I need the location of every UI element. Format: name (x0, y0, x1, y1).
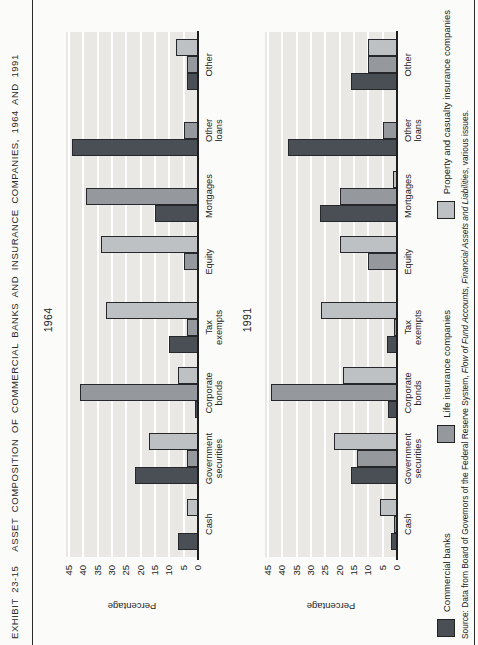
source-prefix: Source: Data from Board of Governors of … (460, 373, 470, 639)
bar-1991-government-securities-series1 (357, 450, 397, 467)
y-tick-1964-30: 30 (106, 565, 117, 595)
bar-1991-tax-exempts-series2 (321, 302, 397, 319)
bar-1964-tax-exempts-series0 (169, 336, 198, 353)
gridline-1991-45 (267, 32, 269, 557)
category-label-1964-other: Other (204, 32, 214, 98)
y-tick-1991-45: 45 (262, 565, 273, 595)
bar-1991-cash-series2 (380, 499, 397, 516)
chart-year-title-1964: 1964 (42, 35, 54, 605)
category-label-1964-tax-exempts: Tax exempts (204, 295, 224, 361)
bar-1991-other-loans-series0 (288, 139, 397, 156)
y-tick-1991-25: 25 (319, 565, 330, 595)
exhibit-number: EXHIBIT 23-15 (9, 566, 20, 639)
gridline-1964-25 (125, 32, 127, 557)
gridline-1991-20 (339, 32, 341, 557)
bar-1991-mortgages-series0 (320, 205, 397, 222)
y-tick-1991-5: 5 (377, 565, 388, 595)
gridline-1964-45 (68, 32, 70, 557)
bar-1964-government-securities-series0 (135, 467, 198, 484)
y-axis-title-1964: Percentage (93, 600, 171, 612)
gridline-1991-25 (324, 32, 326, 557)
bar-1991-mortgages-series1 (340, 188, 397, 205)
category-label-1991-cash: Cash (403, 491, 413, 557)
source-italic-title: Flow of Fund Accounts, Financial Assets … (460, 170, 470, 373)
bar-1991-corporate-bonds-series2 (343, 367, 397, 384)
y-tick-1991-10: 10 (362, 565, 373, 595)
category-label-1991-other-loans: Other loans (403, 98, 423, 164)
gridline-1964-40 (82, 32, 84, 557)
y-tick-1991-40: 40 (276, 565, 287, 595)
category-label-1964-mortgages: Mortgages (204, 163, 214, 229)
bar-1964-other-loans-series1 (184, 122, 198, 139)
title-rule (32, 0, 33, 645)
y-tick-1964-15: 15 (149, 565, 160, 595)
legend-item-life-insurance: Life insurance companies (437, 310, 455, 443)
bar-1991-other-loans-series1 (383, 122, 397, 139)
bar-1964-corporate-bonds-series1 (80, 384, 198, 401)
gridline-1964-30 (111, 32, 113, 557)
gridline-1991-40 (281, 32, 283, 557)
y-tick-1964-10: 10 (163, 565, 174, 595)
y-tick-1964-5: 5 (178, 565, 189, 595)
y-tick-1964-45: 45 (63, 565, 74, 595)
bar-1964-mortgages-series0 (155, 205, 198, 222)
category-label-1964-government-securities: Government securities (204, 426, 224, 492)
y-tick-1964-40: 40 (77, 565, 88, 595)
bar-1964-government-securities-series2 (149, 433, 198, 450)
category-label-1991-tax-exempts: Tax exempts (403, 295, 423, 361)
category-label-1964-other-loans: Other loans (204, 98, 224, 164)
chart-legend: Commercial banks Life insurance companie… (437, 10, 455, 637)
legend-swatch-commercial-banks (437, 619, 455, 637)
legend-swatch-property-casualty (437, 201, 455, 219)
y-tick-1964-25: 25 (120, 565, 131, 595)
category-label-1991-mortgages: Mortgages (403, 163, 413, 229)
y-tick-1991-0: 0 (391, 565, 402, 595)
y-tick-1991-35: 35 (291, 565, 302, 595)
y-tick-1991-30: 30 (305, 565, 316, 595)
bar-1991-other-series1 (368, 56, 397, 73)
y-tick-1964-35: 35 (92, 565, 103, 595)
x-axis-1991 (396, 31, 398, 560)
y-tick-1964-0: 0 (192, 565, 203, 595)
legend-item-commercial-banks: Commercial banks (437, 533, 455, 637)
category-label-1991-government-securities: Government securities (403, 426, 423, 492)
gridline-1991-35 (296, 32, 298, 557)
bar-1991-other-series2 (368, 39, 397, 56)
bar-1991-equity-series1 (368, 253, 397, 270)
chart-year-title-1991: 1991 (241, 35, 253, 605)
category-label-1991-other: Other (403, 32, 413, 98)
y-tick-1964-20: 20 (135, 565, 146, 595)
category-label-1991-corporate-bonds: Corporate bonds (403, 360, 423, 426)
exhibit-landscape-canvas: EXHIBIT 23-15ASSET COMPOSITION OF COMMER… (0, 0, 478, 645)
legend-item-property-casualty: Property and casualty insurance companie… (437, 10, 455, 219)
y-tick-1991-15: 15 (348, 565, 359, 595)
y-axis-title-1991: Percentage (292, 600, 370, 612)
category-label-1964-corporate-bonds: Corporate bonds (204, 360, 224, 426)
bar-1964-mortgages-series1 (86, 188, 198, 205)
bar-1991-other-series0 (351, 73, 397, 90)
exhibit-title: EXHIBIT 23-15ASSET COMPOSITION OF COMMER… (9, 2, 20, 639)
scanned-page: EXHIBIT 23-15ASSET COMPOSITION OF COMMER… (0, 0, 478, 645)
bar-1991-government-securities-series0 (351, 467, 397, 484)
category-label-1964-cash: Cash (204, 491, 214, 557)
gridline-1964-35 (97, 32, 99, 557)
legend-label-commercial-banks: Commercial banks (441, 533, 452, 612)
category-label-1991-equity: Equity (403, 229, 413, 295)
source-suffix: , various issues. (460, 110, 470, 170)
legend-label-life-insurance: Life insurance companies (441, 310, 452, 418)
bottom-rule (474, 0, 475, 645)
gridline-1991-30 (310, 32, 312, 557)
bar-1964-equity-series1 (184, 253, 198, 270)
source-note: Source: Data from Board of Governors of … (460, 4, 470, 639)
exhibit-title-text: ASSET COMPOSITION OF COMMERCIAL BANKS AN… (9, 54, 20, 551)
legend-swatch-life-insurance (437, 425, 455, 443)
legend-label-property-casualty: Property and casualty insurance companie… (441, 10, 452, 194)
bar-1964-corporate-bonds-series2 (178, 367, 198, 384)
bar-1964-tax-exempts-series2 (106, 302, 198, 319)
bar-1991-government-securities-series2 (334, 433, 397, 450)
bar-1991-equity-series2 (340, 236, 397, 253)
bar-1964-other-series2 (176, 39, 198, 56)
category-label-1964-equity: Equity (204, 229, 214, 295)
bar-1964-equity-series2 (101, 236, 198, 253)
bar-1991-corporate-bonds-series1 (271, 384, 397, 401)
